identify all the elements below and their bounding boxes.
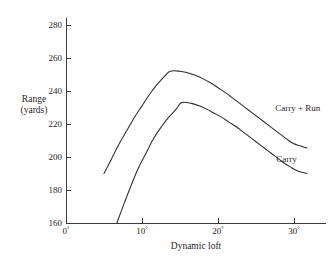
x-tick-group: 0°10°20°30°	[63, 218, 301, 236]
y-tick-label-280: 280	[49, 20, 63, 30]
y-tick-label-220: 220	[49, 119, 63, 129]
y-tick-label-180: 180	[49, 185, 63, 195]
x-tick-label-30: 30°	[288, 226, 300, 236]
x-tick-label-0: 0°	[63, 226, 71, 236]
y-tick-label-260: 260	[49, 53, 63, 63]
y-tick-label-160: 160	[49, 218, 63, 228]
y-tick-label-240: 240	[49, 86, 63, 96]
x-axis-title: Dynamic loft	[171, 241, 222, 251]
y-tick-label-200: 200	[49, 152, 63, 162]
x-tick-label-20: 20°	[212, 226, 224, 236]
series-label-group: Carry + RunCarry	[275, 103, 321, 164]
y-tick-group: 160180200220240260280	[49, 20, 72, 228]
golf-range-vs-loft-chart: Range (yards) 160180200220240260280 0°10…	[0, 0, 333, 256]
series-label-carry: Carry	[276, 154, 297, 164]
plot-area: 160180200220240260280 0°10°20°30° Dynami…	[0, 0, 333, 256]
curve-group	[104, 71, 307, 223]
x-tick-label-10: 10°	[136, 226, 148, 236]
series-label-carry-run: Carry + Run	[275, 103, 321, 113]
